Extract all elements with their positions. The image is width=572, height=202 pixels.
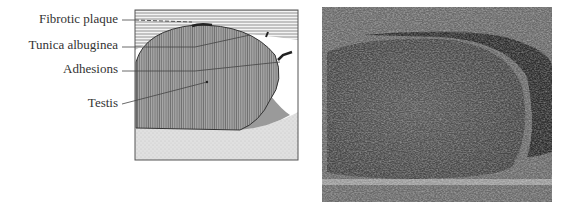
- testis-pointer-dot: [206, 81, 208, 83]
- testis-shape: [136, 25, 279, 130]
- speckle-texture: [322, 7, 552, 202]
- testis-diagram: [0, 0, 320, 202]
- ultrasound-image: [322, 7, 552, 202]
